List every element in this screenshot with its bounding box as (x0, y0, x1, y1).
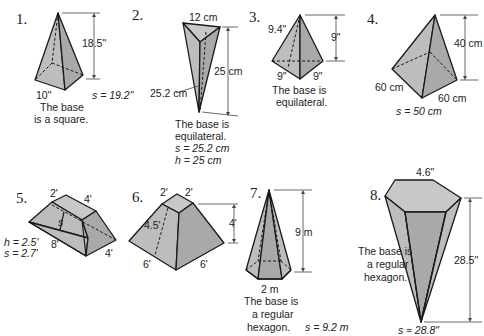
figure-5-base-side-label: 4' (105, 247, 113, 259)
figure-8-slant-label: s ≈ 28.8" (398, 324, 440, 336)
figure-7-note-3: hexagon. (247, 321, 290, 333)
figure-2-triangular-pyramid-inverted: 2. 12 cm 25 cm 25.2 cm The base is equil… (132, 7, 243, 166)
figure-7-number: 7. (250, 185, 261, 201)
figure-2-note-2: equilateral. (175, 130, 226, 142)
figure-6-left-face (129, 204, 179, 270)
figure-3-base-left-label: 9" (277, 70, 287, 82)
figure-7-slant-label: s = 9.2 m (305, 321, 349, 333)
figure-7-height-label: 9 m (295, 226, 313, 238)
figure-1-number: 1. (16, 11, 27, 27)
figure-5-base-front-label: 8' (51, 238, 59, 250)
figure-2-note-4: h = 25 cm (175, 154, 222, 166)
figure-1-square-pyramid: 1. 18.5" 10" s = 19.2" The base is a squ… (16, 11, 135, 125)
figure-6-base-left-label: 6' (143, 258, 151, 270)
figure-3-base-right-label: 9" (313, 70, 323, 82)
figure-2-height-label: 25 cm (214, 65, 243, 77)
figure-3-height-label: 9" (331, 31, 341, 43)
figure-6-slant-label: 4.5' (144, 219, 161, 231)
figure-4-slant-label: s = 50 cm (396, 105, 442, 117)
figure-1-slant-label: s = 19.2" (92, 89, 135, 101)
figure-2-note-1: The base is (175, 118, 229, 130)
figure-5-slant-mark: s (58, 216, 64, 228)
pyramid-exercises-diagram: 1. 18.5" 10" s = 19.2" The base is a squ… (0, 0, 484, 336)
figure-8-number: 8. (370, 187, 381, 203)
figure-8-height-label: 28.5" (454, 254, 478, 266)
figure-4-base-left-label: 60 cm (375, 81, 404, 93)
figure-6-top-left-label: 2' (160, 186, 168, 198)
figure-6-height-label: 4' (229, 217, 237, 229)
figure-4-height-label: 40 cm (454, 37, 483, 49)
figure-1-height-label: 18.5" (82, 37, 106, 49)
figure-6-top-right-label: 2' (185, 186, 193, 198)
figure-5-top-side-label: 4' (84, 193, 92, 205)
figure-3-note-2: equilateral. (276, 96, 327, 108)
figure-6-frustum: 6. 2' 2' 4' 4.5' 6' 6' (129, 186, 238, 270)
figure-3-note-1: The base is (272, 84, 326, 96)
figure-5-slant-value: s = 2.7' (4, 247, 39, 259)
figure-2-slant-label: 25.2 cm (150, 87, 188, 99)
figure-7-note-1: The base is (244, 295, 298, 307)
figure-1-note-1: The base (40, 101, 84, 113)
figure-1-base-edge-label: 10" (36, 89, 52, 101)
figure-3-number: 3. (249, 9, 260, 25)
figure-2-top-edge-label: 12 cm (189, 11, 218, 23)
figure-3-slant-label: 9.4" (268, 23, 287, 35)
figure-8-note-2: a regular (367, 258, 409, 270)
figure-8-top-edge-label: 4.6" (416, 166, 435, 178)
figure-1-note-2: is a square. (34, 113, 88, 125)
figure-6-base-right-label: 6' (200, 258, 208, 270)
figure-7-hexagonal-pyramid: 7. 9 m 2 m The base is a regular hexagon… (244, 185, 349, 333)
figure-3-triangular-pyramid: 3. 9.4" 9" 9" 9" The base is equilateral… (249, 9, 345, 108)
figure-8-inverted-hexagonal-pyramid: 8. 4.6" 28.5" The base is a regular hexa… (358, 166, 482, 336)
figure-2-note-3: s = 25.2 cm (175, 142, 230, 154)
figure-2-number: 2. (132, 7, 143, 23)
figure-4-number: 4. (367, 11, 378, 27)
figure-4-triangular-pyramid: 4. 40 cm 60 cm 60 cm s = 50 cm (367, 11, 483, 117)
figure-6-number: 6. (132, 189, 143, 205)
figure-5-frustum: 5. 2' 4' s 8' 4' h = 2.5' s = 2.7' (4, 187, 116, 259)
figure-8-note-3: hexagon. (364, 271, 407, 283)
figure-5-number: 5. (16, 190, 27, 206)
figure-7-base-edge-label: 2 m (261, 283, 279, 295)
figure-8-note-1: The base is (358, 245, 412, 257)
figure-7-note-2: a regular (252, 308, 294, 320)
figure-4-base-right-label: 60 cm (438, 92, 467, 104)
figure-5-top-front-label: 2' (50, 187, 58, 199)
